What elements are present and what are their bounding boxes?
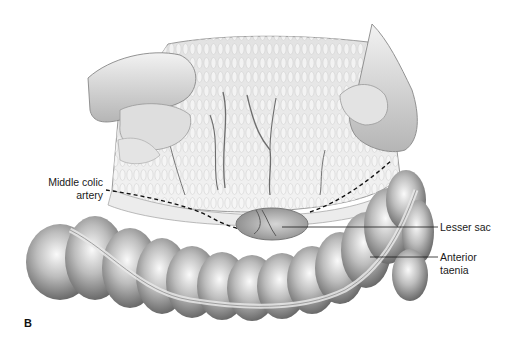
label-lesser-sac: Lesser sac — [440, 221, 491, 234]
lesser-sac-window — [236, 208, 308, 240]
panel-letter: B — [24, 317, 32, 329]
figure-panel: Middle colic artery Lesser sac Anterior … — [0, 0, 510, 355]
label-middle-colic-artery: Middle colic artery — [47, 176, 103, 202]
label-anterior-taenia: Anterior taenia — [440, 251, 477, 277]
